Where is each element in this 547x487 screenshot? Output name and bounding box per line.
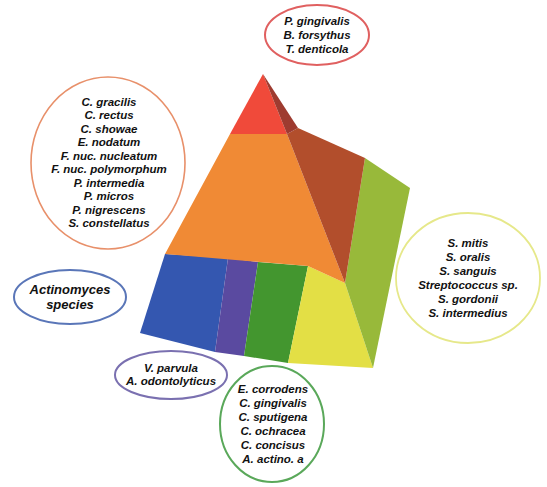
species-name: F. nuc. polymorphum	[51, 163, 167, 177]
species-name: P. intermedia	[74, 177, 145, 191]
species-name: S. gordonii	[438, 292, 498, 306]
species-name: C. concisus	[241, 438, 306, 452]
orange-complex-label: C. gracilis C. rectus C. showae E. nodat…	[33, 84, 185, 242]
species-name: C. ochracea	[240, 424, 305, 438]
species-name: Streptococcus sp.	[418, 278, 518, 292]
species-name: C. sputigena	[238, 410, 307, 424]
species-name: S. oralis	[446, 250, 491, 264]
species-name: P. micros	[84, 190, 134, 204]
green-complex-label: E. corrodens C. gingivalis C. sputigena …	[223, 367, 323, 481]
species-name: B. forsythus	[283, 28, 350, 42]
species-name: A. odontolyticus	[126, 375, 216, 388]
red-complex-label: P. gingivalis B. forsythus T. denticola	[262, 4, 372, 66]
species-name: F. nuc. nucleatum	[61, 150, 158, 164]
diagram-stage: P. gingivalis B. forsythus T. denticola …	[0, 0, 547, 487]
yellow-complex-label: S. mitis S. oralis S. sanguis Streptococ…	[398, 222, 538, 334]
species-name: T. denticola	[285, 42, 348, 56]
species-name: C. showae	[81, 123, 138, 137]
species-name: C. rectus	[84, 109, 133, 123]
actinomyces-label: Actinomyces species	[14, 276, 126, 318]
species-name: S. mitis	[448, 236, 489, 250]
species-name: C. gracilis	[82, 96, 137, 110]
species-name: Actinomyces	[30, 282, 111, 297]
species-name: S. sanguis	[439, 264, 497, 278]
species-name: S. constellatus	[68, 217, 149, 231]
species-name: P. nigrescens	[72, 204, 145, 218]
species-name: C. gingivalis	[239, 396, 307, 410]
species-name: P. gingivalis	[284, 14, 350, 28]
species-name: V. parvula	[144, 362, 198, 375]
species-name: S. intermedius	[428, 306, 507, 320]
pyramid-base-blue	[140, 254, 228, 352]
purple-complex-label: V. parvula A. odontolyticus	[117, 356, 225, 394]
species-name: species	[46, 297, 94, 312]
species-name: E. nodatum	[78, 136, 141, 150]
species-name: E. corrodens	[238, 382, 308, 396]
species-name: A. actino. a	[242, 452, 303, 466]
